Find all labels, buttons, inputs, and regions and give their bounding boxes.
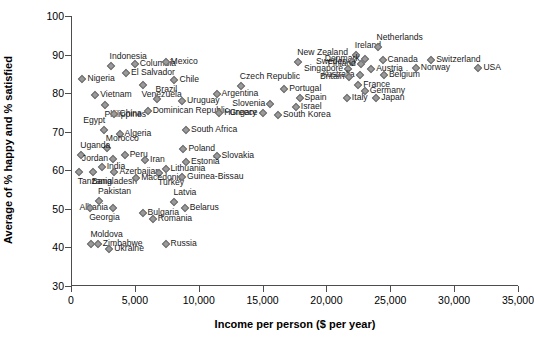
data-point-marker[interactable] xyxy=(258,109,266,117)
y-tick-mark xyxy=(65,132,71,133)
data-point-label: Britain xyxy=(320,72,344,81)
data-point-label: El Salvador xyxy=(131,68,175,77)
x-tick-mark xyxy=(135,286,136,292)
data-point-label: Czech Republic xyxy=(240,72,300,81)
y-tick-label: 40 xyxy=(52,241,64,253)
x-axis-line xyxy=(71,285,518,286)
data-point-marker[interactable] xyxy=(138,81,146,89)
data-point-marker[interactable] xyxy=(354,80,362,88)
x-tick-mark xyxy=(199,286,200,292)
data-point-marker[interactable] xyxy=(101,101,109,109)
data-point-label: USA xyxy=(483,63,501,72)
x-tick-label: 10,000 xyxy=(183,294,215,306)
y-tick-mark xyxy=(65,247,71,248)
y-axis-line xyxy=(71,16,72,286)
data-point-label: Slovakia xyxy=(222,151,254,160)
data-point-label: Russia xyxy=(171,239,197,248)
data-point-marker[interactable] xyxy=(274,110,282,118)
data-point-marker[interactable] xyxy=(109,203,117,211)
data-point-marker[interactable] xyxy=(120,151,128,159)
data-point-marker[interactable] xyxy=(138,209,146,217)
data-point-label: Iran xyxy=(150,155,165,164)
y-tick-label: 30 xyxy=(52,280,64,292)
data-point-marker[interactable] xyxy=(78,75,86,83)
data-point-label: Pakistan xyxy=(98,187,131,196)
data-point-marker[interactable] xyxy=(91,91,99,99)
data-point-marker[interactable] xyxy=(367,65,375,73)
y-tick-label: 90 xyxy=(52,49,64,61)
y-tick-mark xyxy=(65,55,71,56)
x-tick-mark xyxy=(518,286,519,292)
y-tick-label: 60 xyxy=(52,164,64,176)
x-tick-label: 15,000 xyxy=(247,294,279,306)
data-point-label: Netherlands xyxy=(377,33,423,42)
data-point-label: Nigeria xyxy=(87,74,114,83)
data-point-label: Belarus xyxy=(190,203,219,212)
y-tick-mark xyxy=(65,170,71,171)
x-tick-label: 5,000 xyxy=(122,294,148,306)
data-point-marker[interactable] xyxy=(141,156,149,164)
data-point-label: Poland xyxy=(188,144,215,153)
x-tick-mark xyxy=(263,286,264,292)
data-point-label: Vietnam xyxy=(100,90,131,99)
x-tick-mark xyxy=(71,286,72,292)
x-axis-title: Income per person ($ per year) xyxy=(215,318,376,330)
data-point-marker[interactable] xyxy=(94,239,102,247)
y-tick-mark xyxy=(65,93,71,94)
x-tick-label: 20,000 xyxy=(310,294,342,306)
data-point-label: Brazil xyxy=(156,85,178,94)
y-tick-mark xyxy=(65,209,71,210)
data-point-label: Chile xyxy=(179,75,199,84)
x-tick-label: 0 xyxy=(68,294,74,306)
data-point-marker[interactable] xyxy=(280,85,288,93)
data-point-label: Morocco xyxy=(106,134,139,143)
data-point-label: Uganda xyxy=(80,141,110,150)
data-point-marker[interactable] xyxy=(355,70,363,78)
data-point-label: Belgium xyxy=(389,70,420,79)
y-tick-mark xyxy=(65,16,71,17)
y-tick-label: 80 xyxy=(52,87,64,99)
data-point-marker[interactable] xyxy=(294,57,302,65)
data-point-label: Macedonia xyxy=(141,173,183,182)
data-point-marker[interactable] xyxy=(74,168,82,176)
data-point-marker[interactable] xyxy=(106,62,114,70)
x-tick-mark xyxy=(454,286,455,292)
data-point-marker[interactable] xyxy=(180,203,188,211)
data-point-label: South Africa xyxy=(191,125,237,134)
data-point-label: Norway xyxy=(421,63,450,72)
data-point-label: Guinea-Bissau xyxy=(187,172,243,181)
x-tick-mark xyxy=(326,286,327,292)
data-point-marker[interactable] xyxy=(152,95,160,103)
data-point-label: South Korea xyxy=(283,110,331,119)
data-point-marker[interactable] xyxy=(182,126,190,134)
data-point-marker[interactable] xyxy=(122,69,130,77)
data-point-marker[interactable] xyxy=(474,64,482,72)
data-point-label: Italy xyxy=(352,93,368,102)
x-tick-label: 35,000 xyxy=(502,294,534,306)
data-point-label: Greece xyxy=(229,108,257,117)
data-point-label: Egypt xyxy=(83,116,105,125)
data-point-label: Mexico xyxy=(171,57,198,66)
data-point-label: Uruguay xyxy=(187,96,219,105)
data-point-label: Ukraine xyxy=(114,244,144,253)
data-point-label: Georgia xyxy=(89,213,120,222)
data-point-marker[interactable] xyxy=(266,100,274,108)
data-point-label: China xyxy=(119,109,141,118)
data-point-marker[interactable] xyxy=(178,97,186,105)
data-point-marker[interactable] xyxy=(161,240,169,248)
data-point-marker[interactable] xyxy=(170,198,178,206)
data-point-marker[interactable] xyxy=(179,144,187,152)
y-tick-label: 70 xyxy=(52,126,64,138)
data-point-marker[interactable] xyxy=(170,76,178,84)
y-tick-label: 50 xyxy=(52,203,64,215)
x-tick-mark xyxy=(390,286,391,292)
x-tick-label: 30,000 xyxy=(438,294,470,306)
data-point-marker[interactable] xyxy=(343,94,351,102)
data-point-label: Japan xyxy=(381,93,404,102)
data-point-label: Latvia xyxy=(173,188,196,197)
data-point-label: Tanzania xyxy=(78,177,112,186)
data-point-marker[interactable] xyxy=(97,163,105,171)
data-point-label: Jordan xyxy=(82,154,108,163)
data-point-label: Romania xyxy=(158,214,192,223)
